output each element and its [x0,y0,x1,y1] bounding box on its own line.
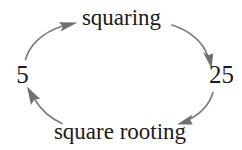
arc-path-upper-left [26,26,63,60]
arc-squaring-right-segment [172,25,213,69]
diagram-canvas: 5 25 squaring square rooting [0,0,242,150]
arc-path-upper-right [172,25,208,56]
arc-squaring-left-segment [26,22,78,59]
arrowhead-toward-5 [27,87,40,106]
node-label-right: 25 [209,61,234,88]
edge-label-squaring: squaring [82,5,162,30]
edge-label-square-rooting: square rooting [54,119,187,144]
arc-rooting-left-segment [27,87,62,124]
cycle-diagram: 5 25 squaring square rooting [0,0,242,150]
arc-path-lower-right [190,93,213,120]
node-label-left: 5 [16,61,29,88]
